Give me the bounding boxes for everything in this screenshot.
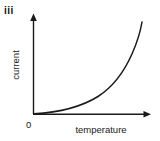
origin-label: 0: [26, 119, 31, 130]
x-axis-label: temperature: [56, 124, 146, 135]
figure-panel: iii current temperature 0: [0, 0, 160, 141]
plot-area: [0, 0, 160, 141]
y-axis-label: current: [11, 37, 21, 93]
x-axis-arrow-icon: [144, 111, 152, 118]
data-curve-current: [34, 22, 142, 114]
y-axis-arrow-icon: [30, 14, 37, 22]
